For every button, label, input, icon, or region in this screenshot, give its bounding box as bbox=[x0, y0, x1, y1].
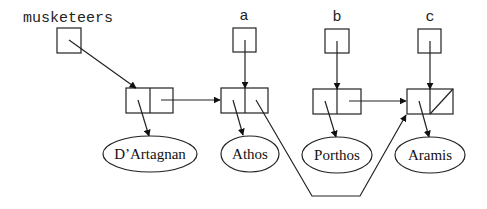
node-label-aramis: Aramis bbox=[408, 147, 452, 163]
arrow-musketeers-to-cell1 bbox=[69, 40, 136, 88]
node-label-dartagnan: D’Artagnan bbox=[114, 146, 186, 162]
variable-label-c: c bbox=[425, 9, 434, 26]
node-athos: Athos bbox=[221, 136, 279, 172]
node-label-porthos: Porthos bbox=[314, 147, 360, 163]
variable-label-b: b bbox=[332, 9, 341, 26]
node-label-athos: Athos bbox=[232, 146, 268, 162]
variable-label-musketeers: musketeers bbox=[23, 10, 113, 27]
node-aramis: Aramis bbox=[395, 137, 465, 173]
variable-label-a: a bbox=[239, 8, 248, 25]
linked-list-diagram: musketeers a b c D’Artagnan A bbox=[0, 0, 487, 209]
node-porthos: Porthos bbox=[302, 137, 372, 173]
node-dartagnan: D’Artagnan bbox=[103, 136, 197, 172]
cons-cell-4 bbox=[407, 89, 453, 114]
